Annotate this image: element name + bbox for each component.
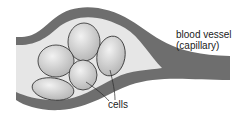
cells-label: cells [108, 99, 128, 110]
blood-vessel-label-line2: (capillary) [176, 40, 232, 51]
blood-vessel-label-line1: blood vessel [176, 29, 232, 40]
cell [69, 60, 97, 90]
cell [38, 45, 74, 77]
blood-vessel-label: blood vessel (capillary) [176, 29, 232, 51]
